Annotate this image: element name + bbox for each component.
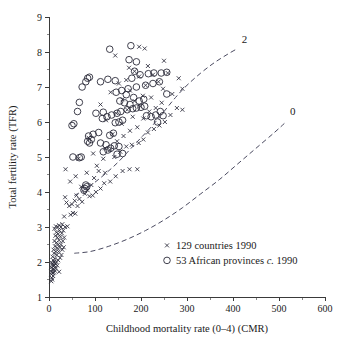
data-point-cross	[101, 157, 105, 161]
data-point-cross	[64, 201, 68, 205]
data-point-circle	[105, 76, 112, 83]
data-point-cross	[131, 115, 135, 119]
data-point-cross	[133, 69, 137, 73]
x-axis-major-ticks	[49, 297, 325, 301]
data-point-cross	[144, 83, 148, 87]
data-point-circle	[129, 75, 136, 82]
data-point-cross	[143, 47, 147, 51]
data-point-circle	[163, 91, 170, 98]
reference-curve-labels: 20	[242, 33, 296, 117]
legend-label-countries: 129 countries 1990	[176, 240, 257, 251]
data-point-cross	[170, 92, 174, 96]
x-tick-label: 500	[272, 303, 287, 314]
legend-label-african-provinces: 53 African provinces c. 1990	[176, 255, 298, 266]
legend-marker-circle	[164, 257, 171, 264]
data-point-circle	[106, 46, 113, 53]
y-tick-label: 1	[37, 292, 42, 303]
x-tick-label: 300	[180, 303, 195, 314]
data-point-cross	[163, 120, 167, 124]
y-tick-label: 8	[37, 47, 42, 58]
x-tick-label: 400	[226, 303, 241, 314]
data-point-cross	[57, 223, 61, 227]
data-point-circle	[74, 108, 81, 115]
y-tick-label: 9	[37, 12, 42, 23]
data-point-cross	[161, 87, 165, 91]
x-tick-label: 600	[318, 303, 333, 314]
data-point-circle	[133, 59, 140, 66]
data-point-cross	[168, 113, 172, 117]
data-point-circle	[71, 120, 78, 127]
x-axis-title: Childhood mortality rate (0–4) (CMR)	[106, 323, 269, 335]
data-point-cross	[175, 106, 179, 110]
data-point-cross	[127, 66, 131, 70]
data-point-cross	[95, 164, 99, 168]
y-axis-major-ticks	[45, 17, 49, 297]
data-point-cross	[52, 248, 56, 252]
y-tick-label: 3	[37, 222, 42, 233]
data-point-circle	[76, 99, 83, 106]
data-point-cross	[97, 169, 101, 173]
data-point-circle	[126, 56, 133, 63]
x-tick-label: 200	[134, 303, 149, 314]
data-point-cross	[62, 215, 66, 219]
data-point-cross	[102, 181, 106, 185]
data-point-cross	[92, 176, 96, 180]
data-point-circle	[70, 154, 77, 161]
data-point-cross	[180, 108, 184, 112]
data-point-cross	[128, 129, 132, 133]
data-point-cross	[128, 167, 132, 171]
y-axis-tick-labels: 123456789	[37, 12, 42, 303]
data-point-circle	[97, 78, 104, 85]
data-point-cross	[154, 106, 158, 110]
data-point-circle	[93, 110, 100, 117]
data-point-cross	[152, 127, 156, 131]
y-tick-label: 2	[37, 257, 42, 268]
data-point-cross	[68, 180, 72, 184]
chart-canvas: 123456789 0100200300400500600 20 129 cou…	[0, 0, 342, 347]
y-axis-title: Total fertility rate (TFR)	[7, 105, 19, 208]
data-point-cross	[122, 134, 126, 138]
chart-legend: 129 countries 199053 African provinces c…	[164, 240, 298, 266]
data-point-cross	[63, 195, 67, 199]
data-point-circle	[143, 112, 150, 119]
data-point-circle	[150, 80, 157, 87]
data-point-circle	[156, 78, 163, 85]
data-point-cross	[156, 80, 160, 84]
data-point-cross	[135, 167, 139, 171]
data-point-cross	[137, 45, 141, 49]
y-tick-label: 7	[37, 82, 42, 93]
data-point-circle	[100, 109, 107, 116]
data-point-cross	[125, 108, 129, 112]
x-tick-label: 0	[47, 303, 52, 314]
data-point-cross	[162, 59, 166, 63]
data-point-circle	[86, 74, 93, 81]
y-tick-label: 6	[37, 117, 42, 128]
scatter-plot-figure: 123456789 0100200300400500600 20 129 cou…	[0, 0, 342, 347]
series-african-provinces-points	[69, 42, 170, 193]
x-axis-tick-labels: 0100200300400500600	[47, 303, 333, 314]
data-point-cross	[135, 125, 139, 129]
data-point-cross	[160, 101, 164, 105]
data-point-cross	[91, 152, 95, 156]
data-point-cross	[108, 180, 112, 184]
data-point-cross	[114, 174, 118, 178]
data-point-cross	[99, 103, 103, 107]
data-point-circle	[128, 42, 135, 49]
data-point-cross	[124, 145, 128, 149]
data-point-cross	[64, 167, 68, 171]
data-point-cross	[76, 204, 80, 208]
data-point-cross	[146, 131, 150, 135]
curve-label-2: 2	[242, 33, 248, 45]
data-point-cross	[62, 236, 66, 240]
data-point-cross	[141, 138, 145, 142]
data-point-cross	[94, 190, 98, 194]
curve-label-0: 0	[290, 105, 296, 117]
data-point-cross	[149, 96, 153, 100]
data-point-cross	[146, 64, 150, 68]
data-point-cross	[57, 270, 61, 274]
data-point-circle	[112, 77, 119, 84]
data-point-cross	[121, 169, 125, 173]
data-point-cross	[73, 199, 77, 203]
data-point-cross	[51, 255, 55, 259]
data-point-cross	[99, 187, 103, 191]
